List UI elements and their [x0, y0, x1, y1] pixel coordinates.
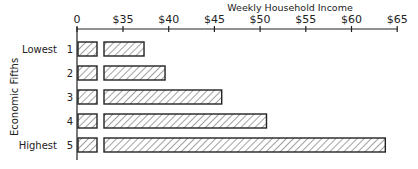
bar-row: Highest5 [19, 138, 386, 152]
bar-base-segment [78, 90, 97, 104]
bar [104, 42, 144, 56]
bar-base-segment [78, 138, 97, 152]
x-tick-label: $40 [158, 13, 179, 26]
x-tick-label: $45 [204, 13, 225, 26]
x-tick-label: $50 [250, 13, 271, 26]
bar-row: 2 [67, 66, 165, 80]
bar-base-segment [78, 114, 97, 128]
bar-row: Lowest1 [22, 42, 144, 56]
category-number-label: 2 [67, 68, 73, 79]
category-number-label: 4 [67, 116, 73, 127]
category-group-label: Highest [19, 140, 57, 151]
chart-title: Weekly Household Income [227, 2, 353, 13]
x-tick-label: 0 [74, 13, 81, 26]
x-tick-label: $60 [341, 13, 362, 26]
bar [104, 90, 222, 104]
bar-row: 3 [67, 90, 222, 104]
bar-row: 4 [67, 114, 267, 128]
bar [104, 138, 385, 152]
bar [104, 114, 266, 128]
bars-group: Lowest1234Highest5 [19, 42, 386, 152]
x-tick-label: $65 [387, 13, 408, 26]
category-group-label: Lowest [22, 44, 57, 55]
bar [104, 66, 165, 80]
x-tick-label: $55 [295, 13, 316, 26]
x-tick-label: $35 [113, 13, 134, 26]
category-number-label: 1 [67, 44, 73, 55]
category-number-label: 5 [67, 140, 73, 151]
category-number-label: 3 [67, 92, 73, 103]
income-bar-chart: Weekly Household Income 0$35$40$45$50$55… [0, 0, 418, 169]
bar-base-segment [78, 66, 97, 80]
bar-base-segment [78, 42, 97, 56]
y-axis-label: Economic Fifths [9, 58, 20, 136]
